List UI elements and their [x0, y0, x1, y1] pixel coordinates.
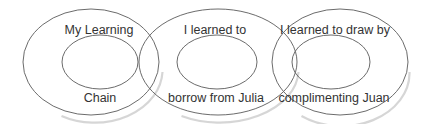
node-1-top-label: My Learning: [65, 23, 134, 37]
inner-ellipse-1: [62, 35, 138, 89]
node-complimenting-juan: I learned to draw by complimenting Juan: [272, 9, 408, 115]
node-borrow-from-julia: I learned to borrow from Julia: [139, 9, 297, 115]
inner-ellipse-3: [292, 35, 370, 89]
node-1-bottom-label: Chain: [84, 91, 117, 105]
node-3-bottom-label: complimenting Juan: [278, 91, 389, 105]
node-3-top-label: I learned to draw by: [280, 23, 391, 37]
node-2-top-label: I learned to: [184, 23, 247, 37]
node-2-bottom-label: borrow from Julia: [168, 91, 264, 105]
inner-ellipse-2: [177, 35, 257, 89]
learning-chain-diagram: My Learning Chain I learned to borrow fr…: [0, 0, 429, 124]
